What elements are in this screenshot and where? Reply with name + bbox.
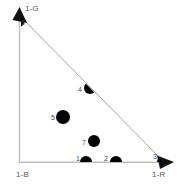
- data-point-label: 2: [104, 155, 108, 162]
- plot-canvas: [0, 0, 177, 185]
- right-arrow-icon: [157, 156, 174, 170]
- data-point-label: 4: [78, 86, 82, 93]
- data-point[interactable]: [56, 110, 70, 124]
- data-point-label: 3: [153, 153, 157, 160]
- axis-label-green: 1-G: [25, 5, 39, 13]
- data-point[interactable]: [88, 135, 100, 147]
- data-point[interactable]: [84, 82, 96, 94]
- data-point-label: 1: [76, 155, 80, 162]
- data-point-label: 6: [21, 19, 25, 26]
- ternary-rgb-scatter-figure: 1-G 1-B 1-R 1234567: [0, 0, 177, 185]
- data-point-label: 7: [82, 139, 86, 146]
- data-point[interactable]: [80, 156, 92, 168]
- data-point-label: 5: [51, 114, 55, 121]
- axis-label-blue: 1-B: [16, 171, 29, 179]
- data-point[interactable]: [110, 156, 122, 168]
- data-points-group: [14, 17, 167, 168]
- axis-label-red: 1-R: [152, 171, 166, 179]
